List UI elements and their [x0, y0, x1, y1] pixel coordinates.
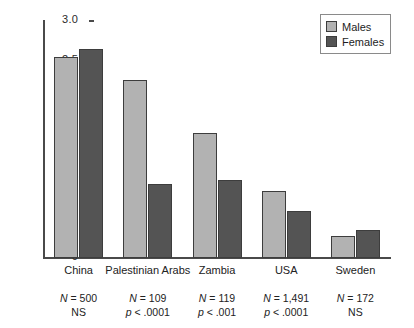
bar-males — [262, 191, 286, 258]
annotation-sample-size: N = 109 — [126, 291, 170, 305]
annotation-sample-size: N = 500 — [60, 291, 97, 305]
bar-group — [193, 133, 242, 258]
group-annotation: N = 172NS — [337, 291, 374, 319]
legend-swatch-females-icon — [326, 36, 337, 47]
bar-group — [123, 80, 172, 258]
annotation-significance: NS — [337, 305, 374, 319]
legend-swatch-males-icon — [326, 21, 337, 32]
legend-item-males: Males — [326, 19, 384, 34]
plot-area: 0.51.01.52.02.53.0 — [44, 21, 390, 258]
annotation-sample-size: N = 1,491 — [263, 291, 309, 305]
annotation-significance: NS — [60, 305, 97, 319]
bar-group — [331, 230, 380, 258]
bar-males — [54, 57, 78, 258]
x-axis-category-label: China — [64, 264, 93, 276]
legend-label-males: Males — [342, 21, 371, 33]
annotation-sample-size: N = 172 — [337, 291, 374, 305]
bar-males — [193, 133, 217, 258]
chart-legend: Males Females — [320, 14, 391, 54]
annotation-significance: p < .0001 — [126, 305, 170, 319]
group-annotation: N = 1,491p < .0001 — [263, 291, 309, 319]
bar-chart: 0.51.01.52.02.53.0 ChinaPalestinian Arab… — [0, 0, 414, 328]
x-axis-category-label: Palestinian Arabs — [105, 264, 190, 276]
group-annotation: N = 500NS — [60, 291, 97, 319]
bar-females — [356, 230, 380, 258]
bar-females — [148, 184, 172, 258]
bar-group — [54, 49, 103, 258]
annotation-sample-size: N = 119 — [198, 291, 236, 305]
bar-females — [218, 180, 242, 258]
y-axis-tick-mark — [89, 20, 94, 22]
legend-item-females: Females — [326, 34, 384, 49]
legend-label-females: Females — [342, 36, 384, 48]
x-axis-category-label: USA — [275, 264, 298, 276]
y-axis-tick-label: 3.0 — [62, 13, 78, 25]
group-annotation: N = 109p < .0001 — [126, 291, 170, 319]
bar-females — [287, 211, 311, 258]
annotation-significance: p < .001 — [198, 305, 236, 319]
bar-males — [331, 236, 355, 258]
group-annotation: N = 119p < .001 — [198, 291, 236, 319]
bar-group — [262, 191, 311, 258]
x-axis-category-label: Sweden — [336, 264, 376, 276]
bar-males — [123, 80, 147, 258]
bar-females — [79, 49, 103, 258]
annotation-significance: p < .0001 — [263, 305, 309, 319]
x-axis-category-label: Zambia — [199, 264, 236, 276]
